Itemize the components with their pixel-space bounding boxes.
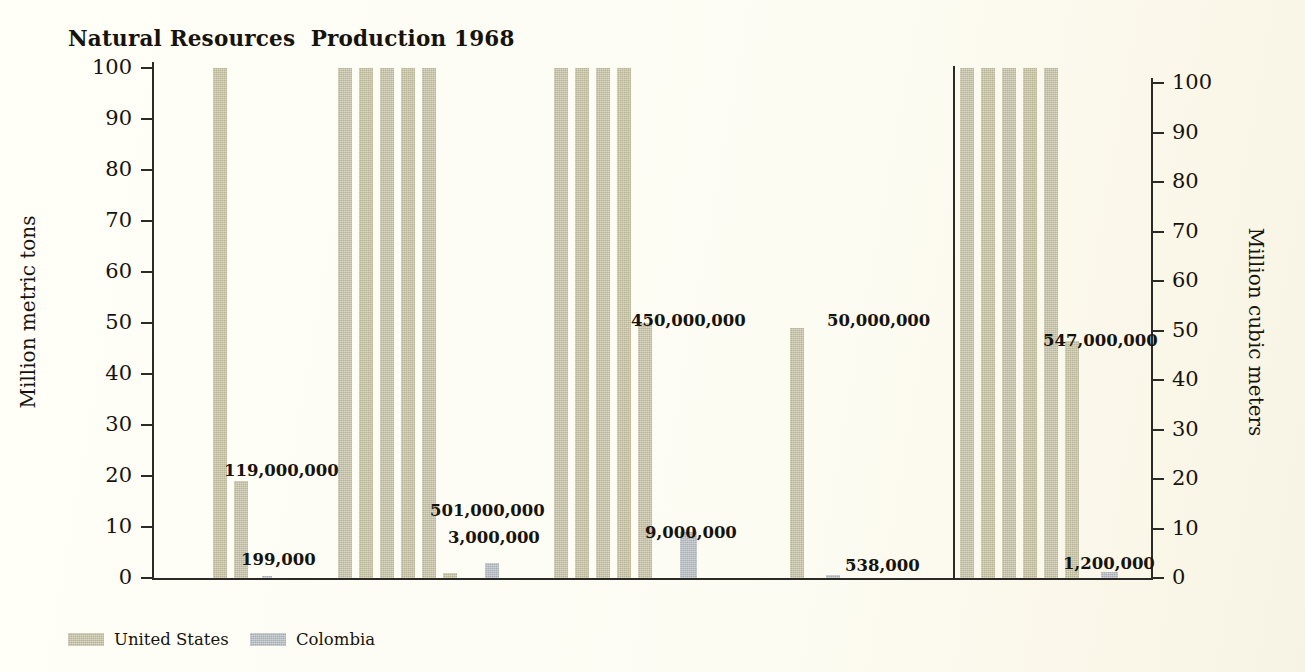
left-axis-tick: [141, 475, 152, 477]
right-axis-tick: [1153, 280, 1164, 282]
bar-us-coal-full-3: [380, 68, 394, 578]
bar-us-coal-full-1: [338, 68, 352, 578]
right-axis-tick: [1153, 429, 1164, 431]
bar-us-oil-full-2: [575, 68, 589, 578]
bar-us-gas-full-4: [1023, 68, 1037, 578]
bar-us-oil-full-3: [596, 68, 610, 578]
page-title: Natural Resources Production 1968: [68, 26, 515, 51]
bar-us-oil-full-4: [617, 68, 631, 578]
left-axis-tick: [141, 220, 152, 222]
value-label-us-steel: 119,000,000: [224, 463, 339, 480]
bar-us-oil-full-1: [554, 68, 568, 578]
bar-us-gas-partial: [1065, 341, 1079, 578]
right-axis-tick: [1153, 82, 1164, 84]
left-axis-tick-label: 10: [0, 516, 132, 537]
left-axis-tick-label: 20: [0, 465, 132, 486]
value-label-us-oil: 450,000,000: [631, 313, 746, 330]
left-axis-tick: [141, 322, 152, 324]
left-axis-tick-label: 30: [0, 414, 132, 435]
right-axis-tick: [1153, 577, 1164, 579]
value-label-colombia-gas: 1,200,000: [1063, 556, 1155, 573]
bar-us-gas-full-1: [960, 68, 974, 578]
right-axis-tick-label: 0: [1172, 567, 1185, 588]
baseline-axis: [152, 578, 1153, 580]
left-axis-tick: [141, 118, 152, 120]
left-axis-tick-label: 60: [0, 261, 132, 282]
bar-us-gas-full-3: [1002, 68, 1016, 578]
legend-item-united-states: United States: [68, 630, 229, 649]
bar-us-coal-full-4: [401, 68, 415, 578]
left-axis-tick: [141, 577, 152, 579]
bar-us-iron-partial: [790, 328, 804, 578]
bar-colombia-coal: [485, 563, 499, 578]
right-axis-tick-label: 60: [1172, 270, 1199, 291]
left-axis-tick-label: 90: [0, 108, 132, 129]
group-divider-line: [953, 66, 955, 580]
right-axis-tick-label: 80: [1172, 171, 1199, 192]
bar-us-gas-full-5: [1044, 68, 1058, 578]
right-axis-tick-label: 10: [1172, 518, 1199, 539]
right-axis-tick: [1153, 528, 1164, 530]
right-axis-title: Million cubic meters: [1244, 182, 1268, 482]
right-axis-tick-label: 90: [1172, 122, 1199, 143]
right-axis-tick: [1153, 132, 1164, 134]
left-axis-tick: [141, 169, 152, 171]
left-axis-tick: [141, 526, 152, 528]
chart-page: Natural Resources Production 1968 Millio…: [0, 0, 1305, 672]
bar-us-steel-full-1: [213, 68, 227, 578]
right-axis-tick-label: 40: [1172, 369, 1199, 390]
bar-us-gas-full-2: [981, 68, 995, 578]
left-axis-tick-label: 70: [0, 210, 132, 231]
legend-label-colombia: Colombia: [296, 630, 375, 649]
legend-item-colombia: Colombia: [250, 630, 375, 649]
legend-label-united-states: United States: [114, 630, 229, 649]
bar-colombia-iron: [826, 575, 840, 578]
bar-colombia-steel: [262, 576, 272, 578]
left-axis-tick: [141, 67, 152, 69]
value-label-us-coal: 501,000,000: [430, 503, 545, 520]
legend-swatch-united-states: [68, 633, 104, 646]
value-label-us-iron: 50,000,000: [827, 313, 930, 330]
left-axis-line: [152, 62, 154, 580]
left-axis-tick: [141, 373, 152, 375]
value-label-us-gas: 547,000,000: [1043, 333, 1158, 350]
left-axis-tick-label: 0: [0, 567, 132, 588]
right-axis-tick-label: 30: [1172, 419, 1199, 440]
left-axis-tick-label: 50: [0, 312, 132, 333]
right-axis-tick: [1153, 231, 1164, 233]
value-label-colombia-oil: 9,000,000: [645, 525, 737, 542]
left-axis-tick-label: 100: [0, 57, 132, 78]
right-axis-tick-label: 50: [1172, 320, 1199, 341]
left-axis-tick-label: 40: [0, 363, 132, 384]
left-axis-tick-label: 80: [0, 159, 132, 180]
right-axis-tick: [1153, 379, 1164, 381]
bar-us-coal-partial: [443, 573, 457, 578]
left-axis-tick: [141, 271, 152, 273]
right-axis-tick-label: 20: [1172, 468, 1199, 489]
right-axis-tick: [1153, 478, 1164, 480]
value-label-colombia-coal: 3,000,000: [448, 530, 540, 547]
value-label-colombia-iron: 538,000: [845, 558, 920, 575]
legend-swatch-colombia: [250, 633, 286, 646]
bar-us-coal-full-2: [359, 68, 373, 578]
right-axis-tick: [1153, 181, 1164, 183]
value-label-colombia-steel: 199,000: [241, 552, 316, 569]
right-axis-tick-label: 100: [1172, 72, 1212, 93]
right-axis-tick-label: 70: [1172, 221, 1199, 242]
left-axis-tick: [141, 424, 152, 426]
